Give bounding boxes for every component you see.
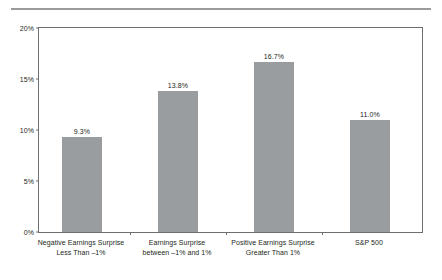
y-tick-label-3: 15% [20, 76, 39, 83]
bar-positive-earnings-surprise [254, 62, 294, 232]
bar-value-label-1: 13.8% [168, 82, 188, 89]
x-axis-label-line-2: Less Than –1% [38, 248, 125, 258]
top-rule-divider [11, 8, 431, 10]
bar-sp500 [350, 120, 390, 232]
x-axis-label-line-2: between –1% and 1% [142, 248, 211, 258]
y-tick-label-4: 20% [20, 25, 39, 32]
x-axis-label-line-1: Negative Earnings Surprise [38, 238, 125, 248]
y-tick-label-0: 0% [24, 229, 39, 236]
y-tick-label-1: 5% [24, 178, 39, 185]
x-axis-label-sp500: S&P 500 [355, 238, 383, 248]
bar-value-label-0: 9.3% [74, 128, 90, 135]
bar-value-label-2: 16.7% [264, 53, 284, 60]
plot-area: 0% 5% 10% 15% 20% 9.3% 13.8% 16.7% 11.0% [38, 27, 423, 233]
x-axis-label-positive-earnings-surprise: Positive Earnings Surprise Greater Than … [231, 238, 314, 257]
x-axis-label-line-1: Earnings Surprise [142, 238, 211, 248]
x-axis-tick-1 [130, 232, 131, 235]
chart-figure: 0% 5% 10% 15% 20% 9.3% 13.8% 16.7% 11.0%… [0, 0, 442, 280]
x-axis-tick-2 [226, 232, 227, 235]
x-axis-label-earnings-surprise-between: Earnings Surprise between –1% and 1% [142, 238, 211, 257]
y-tick-label-2: 10% [20, 127, 39, 134]
x-axis-label-line-2: Greater Than 1% [231, 248, 314, 258]
x-axis-label-negative-earnings-surprise: Negative Earnings Surprise Less Than –1% [38, 238, 125, 257]
bar-value-label-3: 11.0% [360, 111, 380, 118]
x-axis-label-line-1: Positive Earnings Surprise [231, 238, 314, 248]
bar-earnings-surprise-between [158, 91, 198, 232]
x-axis-tick-3 [322, 232, 323, 235]
bar-negative-earnings-surprise [62, 137, 102, 232]
x-axis-label-line-1: S&P 500 [355, 238, 383, 248]
